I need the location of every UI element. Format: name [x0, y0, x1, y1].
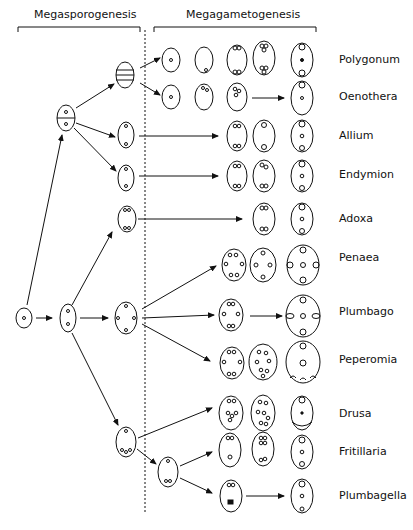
label-allium: Allium [339, 129, 373, 142]
embryo-sac-development-diagram: Megasporogenesis Megagametogenesis Polyg… [0, 0, 413, 530]
label-oenothera: Oenothera [339, 90, 397, 103]
header-megagametogenesis: Megagametogenesis [186, 8, 300, 21]
label-plumbagella: Plumbagella [339, 489, 407, 502]
label-polygonum: Polygonum [339, 53, 400, 66]
label-plumbago: Plumbago [339, 305, 394, 318]
label-penaea: Penaea [339, 251, 379, 264]
label-drusa: Drusa [339, 407, 371, 420]
bracket-megagametogenesis [154, 27, 316, 32]
bracket-megasporogenesis [18, 27, 140, 32]
header-megasporogenesis: Megasporogenesis [34, 8, 136, 21]
label-peperomia: Peperomia [339, 353, 397, 366]
label-endymion: Endymion [339, 168, 394, 181]
label-fritillaria: Fritillaria [339, 445, 387, 458]
label-adoxa: Adoxa [339, 212, 373, 225]
